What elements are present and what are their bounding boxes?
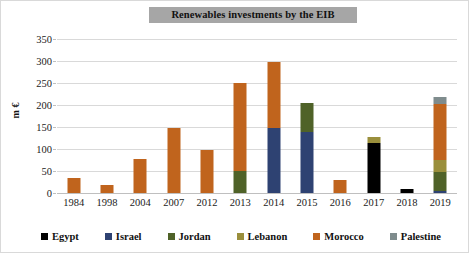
bar-stack[interactable] — [434, 97, 447, 193]
x-tick-label: 2012 — [196, 197, 217, 208]
y-tick-mark — [53, 127, 56, 128]
legend-label: Lebanon — [248, 231, 288, 242]
y-tick-mark — [53, 83, 56, 84]
bar-group[interactable]: 2015 — [290, 39, 323, 193]
bar-stack[interactable] — [67, 178, 80, 193]
legend-label: Israel — [116, 231, 142, 242]
y-axis-title: m € — [10, 91, 21, 131]
y-tick-label: 350 — [36, 34, 52, 45]
legend-item-jordan[interactable]: Jordan — [168, 231, 211, 242]
y-tick-mark — [53, 105, 56, 106]
y-tick-mark — [53, 171, 56, 172]
bar-segment-jordan[interactable] — [234, 171, 247, 193]
x-tick-label: 2014 — [263, 197, 284, 208]
bar-segment-jordan[interactable] — [434, 172, 447, 190]
y-tick-label: 50 — [42, 166, 53, 177]
bar-segment-egypt[interactable] — [367, 143, 380, 193]
bar-segment-morocco[interactable] — [234, 83, 247, 171]
chart-legend: EgyptIsraelJordanLebanonMoroccoPalestine — [41, 228, 441, 244]
legend-label: Egypt — [52, 231, 79, 242]
bar-segment-morocco[interactable] — [434, 104, 447, 160]
bar-group[interactable]: 2016 — [324, 39, 357, 193]
bar-stack[interactable] — [167, 128, 180, 193]
bar-segment-morocco[interactable] — [134, 159, 147, 193]
bar-segment-israel[interactable] — [267, 128, 280, 193]
bar-segment-morocco[interactable] — [267, 62, 280, 128]
bar-segment-israel[interactable] — [434, 191, 447, 193]
x-tick-label: 2013 — [230, 197, 251, 208]
bar-stack[interactable] — [267, 62, 280, 193]
legend-label: Jordan — [179, 231, 211, 242]
bar-group[interactable]: 1984 — [57, 39, 90, 193]
y-tick-mark — [53, 39, 56, 40]
bar-stack[interactable] — [200, 150, 213, 193]
bar-group[interactable]: 2013 — [224, 39, 257, 193]
y-tick-label: 100 — [36, 144, 52, 155]
bar-stack[interactable] — [300, 103, 313, 193]
legend-item-palestine[interactable]: Palestine — [390, 231, 441, 242]
bar-group[interactable]: 1998 — [90, 39, 123, 193]
x-tick-label: 2016 — [330, 197, 351, 208]
bar-stack[interactable] — [334, 180, 347, 193]
bar-segment-morocco[interactable] — [67, 178, 80, 193]
x-tick-label: 2007 — [163, 197, 184, 208]
legend-swatch-icon — [313, 233, 320, 240]
legend-label: Palestine — [401, 231, 441, 242]
plot-area: 050100150200250300350 198419982004200720… — [57, 39, 457, 193]
bar-stack[interactable] — [134, 159, 147, 193]
bar-segment-palestine[interactable] — [434, 97, 447, 104]
legend-swatch-icon — [237, 233, 244, 240]
y-tick-mark — [53, 193, 56, 194]
legend-item-lebanon[interactable]: Lebanon — [237, 231, 288, 242]
legend-swatch-icon — [41, 233, 48, 240]
y-tick-label: 0 — [47, 188, 52, 199]
y-tick-label: 250 — [36, 78, 52, 89]
bar-group[interactable]: 2018 — [390, 39, 423, 193]
bar-group[interactable]: 2007 — [157, 39, 190, 193]
x-tick-label: 2015 — [296, 197, 317, 208]
y-tick-mark — [53, 149, 56, 150]
bar-group[interactable]: 2017 — [357, 39, 390, 193]
y-tick-mark — [53, 61, 56, 62]
bar-segment-israel[interactable] — [300, 132, 313, 193]
legend-label: Morocco — [324, 231, 363, 242]
bar-segment-jordan[interactable] — [300, 103, 313, 132]
x-tick-label: 2017 — [363, 197, 384, 208]
x-tick-label: 2018 — [396, 197, 417, 208]
bar-group[interactable]: 2004 — [124, 39, 157, 193]
x-tick-label: 1998 — [96, 197, 117, 208]
y-tick-label: 300 — [36, 56, 52, 67]
legend-item-israel[interactable]: Israel — [105, 231, 142, 242]
bar-group[interactable]: 2014 — [257, 39, 290, 193]
bar-group[interactable]: 2019 — [424, 39, 457, 193]
bar-segment-lebanon[interactable] — [434, 160, 447, 173]
legend-item-egypt[interactable]: Egypt — [41, 231, 79, 242]
bar-stack[interactable] — [234, 83, 247, 193]
x-tick-label: 1984 — [63, 197, 84, 208]
y-tick-label: 200 — [36, 100, 52, 111]
bar-stack[interactable] — [400, 189, 413, 193]
legend-swatch-icon — [105, 233, 112, 240]
legend-swatch-icon — [390, 233, 397, 240]
y-tick-label: 150 — [36, 122, 52, 133]
bar-group[interactable]: 2012 — [190, 39, 223, 193]
x-tick-label: 2019 — [430, 197, 451, 208]
legend-swatch-icon — [168, 233, 175, 240]
bar-segment-morocco[interactable] — [200, 150, 213, 193]
bar-stack[interactable] — [100, 185, 113, 193]
bar-segment-morocco[interactable] — [167, 128, 180, 193]
x-tick-label: 2004 — [130, 197, 151, 208]
bar-segment-egypt[interactable] — [400, 189, 413, 193]
bar-stack[interactable] — [367, 137, 380, 193]
gridline: 0 — [57, 193, 457, 194]
chart-title: Renewables investments by the EIB — [149, 7, 357, 23]
bar-segment-morocco[interactable] — [100, 185, 113, 193]
chart-container: Renewables investments by the EIB m € 05… — [0, 0, 469, 253]
legend-item-morocco[interactable]: Morocco — [313, 231, 363, 242]
bar-segment-morocco[interactable] — [334, 180, 347, 193]
